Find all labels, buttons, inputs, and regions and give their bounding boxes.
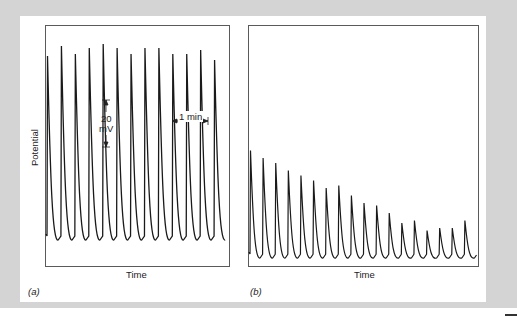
panel-b-trace [0, 0, 517, 324]
panel-b-x-label: Time [354, 269, 375, 280]
panel-b-tag: (b) [250, 286, 262, 297]
page-corner-mark [505, 314, 517, 316]
paren: ) [258, 286, 261, 297]
